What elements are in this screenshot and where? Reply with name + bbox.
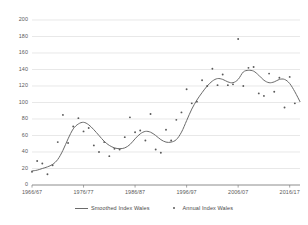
y-tick-label: 200 [10,17,28,22]
y-tick-label: 160 [10,50,28,55]
y-tick-label: 0 [10,182,28,187]
y-tick-label: 40 [10,149,28,154]
y-tick-label: 180 [10,34,28,39]
smoothed-index-line [32,70,300,171]
y-tick-label: 120 [10,83,28,88]
y-tick-label: 140 [10,67,28,72]
x-tick-label: 1966/67 [16,190,48,195]
x-tick-label: 2006/07 [222,190,254,195]
legend-item-annual[interactable]: Annual Index Wales [168,205,234,211]
y-tick-label: 60 [10,133,28,138]
x-tick-label: 2016/17 [274,190,306,195]
line-swatch-icon [75,208,88,209]
dot-swatch-icon [173,207,175,209]
y-tick-label: 100 [10,100,28,105]
gridlines [32,20,300,169]
chart-legend: Smoothed Index Wales Annual Index Wales [0,205,308,211]
chart-container: WdIS Index 200180160140120100806040200 1… [0,0,308,225]
legend-label-annual: Annual Index Wales [183,205,234,211]
legend-label-smoothed: Smoothed Index Wales [91,205,150,211]
x-tick-label: 1976/77 [68,190,100,195]
x-tick-label: 1996/97 [171,190,203,195]
annual-index-points [31,38,296,175]
y-tick-label: 20 [10,166,28,171]
legend-item-smoothed[interactable]: Smoothed Index Wales [75,205,150,211]
y-tick-label: 80 [10,116,28,121]
x-tick-label: 1986/87 [119,190,151,195]
